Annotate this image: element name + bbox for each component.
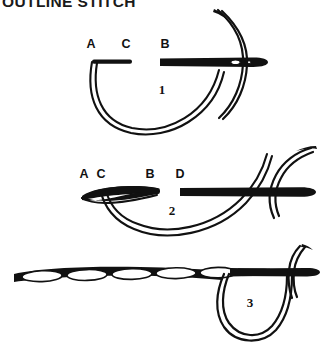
needle-thread-curve-2 [270,146,317,218]
sewing-needle-icon-2 [180,187,316,197]
point-label-b-1: B [160,37,169,51]
diagram-number-1: 1 [159,82,166,97]
outline-stitch-illustration: A C B 1 [0,0,324,360]
diagram-3-group: 3 [14,244,320,341]
sewing-needle-icon-3 [238,268,320,276]
diagram-page: OUTLINE STITCH [0,0,324,360]
point-label-a-2: A [79,167,88,181]
diagram-number-2: 2 [169,203,176,218]
point-label-d-2: D [175,167,184,181]
diagram-2-group: A C B D 2 [79,146,317,235]
point-label-b-2: B [145,167,154,181]
sewing-needle-icon-1 [160,57,268,66]
point-label-c-2: C [96,167,105,181]
stitch-line-ac-1 [92,60,132,64]
thread-loop-icon-3 [217,274,292,341]
point-label-c-1: C [121,37,130,51]
diagram-number-3: 3 [247,295,254,310]
braided-stitch-row-icon [14,267,275,283]
thread-loop-icon-1 [90,62,224,134]
completed-stitch-ab-2 [82,186,160,203]
point-label-a-1: A [86,37,95,51]
diagram-1-group: A C B 1 [86,9,268,134]
